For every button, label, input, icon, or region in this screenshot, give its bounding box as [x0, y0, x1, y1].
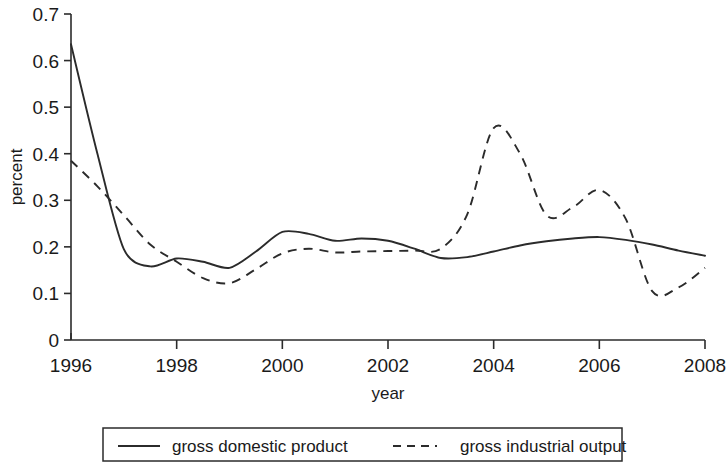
- x-axis-tick-labels: 1996199820002002200420062008: [50, 355, 726, 376]
- x-axis-ticks: [71, 333, 705, 349]
- y-tick-label: 0.4: [33, 144, 60, 165]
- x-axis: 1996199820002002200420062008 year: [50, 333, 726, 403]
- x-axis-title: year: [371, 384, 404, 403]
- legend-label-gross-industrial-output: gross industrial output: [460, 437, 627, 456]
- x-tick-label: 1996: [50, 355, 92, 376]
- legend-label-gross-domestic-product: gross domestic product: [172, 437, 348, 456]
- y-tick-label: 0.1: [33, 283, 59, 304]
- x-tick-label: 2006: [578, 355, 620, 376]
- y-tick-label: 0: [48, 330, 59, 351]
- x-tick-label: 2002: [367, 355, 409, 376]
- plot-area: [71, 44, 705, 296]
- x-tick-label: 2008: [684, 355, 726, 376]
- y-axis-tick-labels: 00.10.20.30.40.50.60.7: [33, 4, 60, 351]
- y-tick-label: 0.2: [33, 237, 59, 258]
- y-axis-title: percent: [7, 148, 26, 205]
- y-tick-label: 0.7: [33, 4, 59, 25]
- y-tick-label: 0.5: [33, 97, 59, 118]
- line-chart: 00.10.20.30.40.50.60.7 percent 199619982…: [0, 0, 726, 462]
- y-axis-ticks: [64, 14, 71, 340]
- x-tick-label: 2004: [473, 355, 516, 376]
- x-tick-label: 1998: [156, 355, 198, 376]
- y-tick-label: 0.3: [33, 190, 59, 211]
- y-tick-label: 0.6: [33, 51, 59, 72]
- x-tick-label: 2000: [261, 355, 303, 376]
- legend: gross domestic product gross industrial …: [103, 428, 627, 461]
- y-axis: 00.10.20.30.40.50.60.7 percent: [7, 4, 71, 351]
- chart-canvas: 00.10.20.30.40.50.60.7 percent 199619982…: [0, 0, 726, 462]
- series-gross-domestic-product: [71, 44, 705, 268]
- series-gross-industrial-output: [71, 125, 705, 296]
